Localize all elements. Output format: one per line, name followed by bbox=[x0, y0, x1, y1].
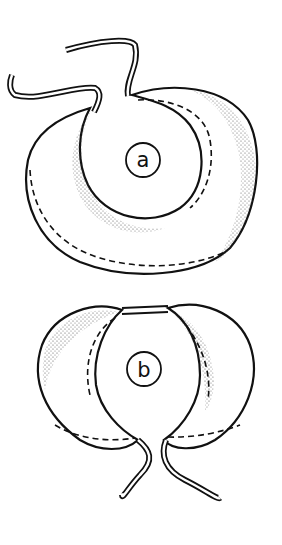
label-b: b bbox=[137, 358, 150, 382]
figure-a-outer-body bbox=[26, 88, 257, 274]
figure-b-left-lobe bbox=[38, 307, 138, 449]
figure-b-bridge bbox=[122, 306, 168, 314]
label-a: a bbox=[137, 148, 150, 172]
figure-b: b bbox=[38, 305, 254, 498]
diagram-canvas: a b bbox=[0, 0, 282, 545]
figure-a: a bbox=[10, 41, 257, 274]
